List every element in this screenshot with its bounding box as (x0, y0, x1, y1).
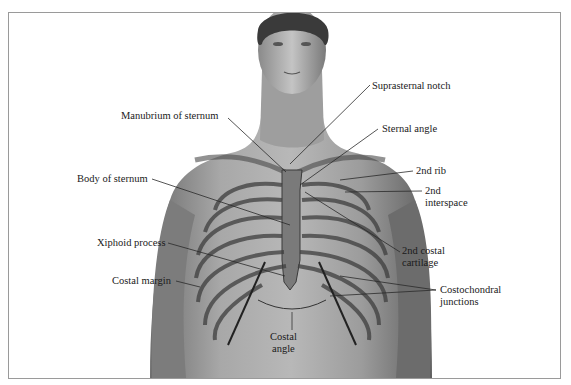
label-2nd-rib: 2nd rib (416, 165, 446, 177)
label-2nd-costal-cartilage: 2nd costal cartilage (402, 245, 445, 269)
label-costochondral-line2: junctions (440, 296, 501, 308)
label-2nd-interspace-line1: 2nd (425, 185, 468, 197)
label-costochondral-junctions: Costochondral junctions (440, 284, 501, 308)
label-body-of-sternum: Body of sternum (77, 173, 148, 185)
label-costochondral-line1: Costochondral (440, 284, 501, 296)
torso-illustration (0, 0, 571, 385)
label-2nd-costal-cartilage-line1: 2nd costal (402, 245, 445, 257)
label-costal-angle-line2: angle (270, 343, 297, 355)
label-xiphoid-process: Xiphoid process (97, 237, 166, 249)
label-sternal-angle: Sternal angle (382, 123, 437, 135)
label-suprasternal-notch: Suprasternal notch (372, 80, 450, 92)
label-2nd-interspace: 2nd interspace (425, 185, 468, 209)
label-2nd-costal-cartilage-line2: cartilage (402, 257, 445, 269)
label-2nd-interspace-line2: interspace (425, 197, 468, 209)
label-manubrium: Manubrium of sternum (121, 110, 218, 122)
label-costal-angle-line1: Costal (270, 331, 297, 343)
label-costal-margin: Costal margin (112, 275, 171, 287)
label-costal-angle: Costal angle (270, 331, 297, 355)
